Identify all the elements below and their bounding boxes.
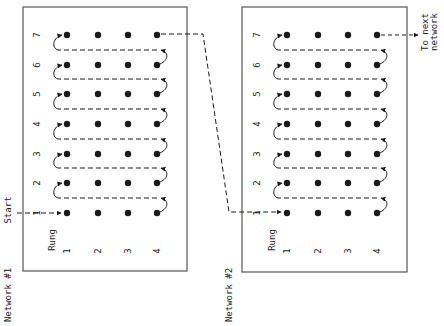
contact-dot	[315, 151, 321, 157]
contact-dot	[64, 32, 70, 38]
contact-dot	[345, 62, 351, 68]
rung-label: 7	[252, 32, 262, 37]
scan-advance-curve	[54, 124, 62, 139]
column-label: 1	[62, 248, 72, 253]
rung-label: 7	[32, 32, 42, 37]
contact-dot	[64, 91, 70, 97]
column-label: 2	[313, 248, 323, 253]
scan-advance-curve	[274, 154, 282, 168]
scan-advance-curve	[274, 35, 282, 50]
contact-dot	[315, 62, 321, 68]
scan-advance-curve	[54, 65, 62, 79]
contact-dot	[95, 121, 101, 127]
contact-dot	[345, 32, 351, 38]
column-label: 3	[123, 248, 133, 253]
contact-dot	[154, 121, 160, 127]
scan-diagram: 12345671234 12345671234 Start Network #1…	[0, 0, 444, 326]
rung-label: 6	[252, 62, 262, 67]
scan-return-curve	[160, 198, 167, 212]
contact-dot	[64, 121, 70, 127]
network-2-label: Network #2	[224, 268, 234, 322]
contact-dot	[345, 91, 351, 97]
contact-dot	[154, 180, 160, 186]
contact-dot	[374, 62, 380, 68]
rung-label: 4	[32, 121, 42, 126]
scan-advance-curve	[274, 65, 282, 79]
contact-dot	[125, 32, 131, 38]
column-label: 2	[93, 248, 103, 253]
contact-dot	[125, 91, 131, 97]
rung-label: 6	[32, 62, 42, 67]
scan-return-curve	[380, 198, 387, 212]
contact-dot	[374, 121, 380, 127]
column-label: 3	[343, 248, 353, 253]
contact-dot	[374, 32, 380, 38]
scan-return-curve	[160, 109, 167, 123]
scan-return-curve	[160, 168, 167, 182]
contact-dot	[95, 180, 101, 186]
rung-label: 4	[252, 121, 262, 126]
scan-advance-curve	[274, 183, 282, 198]
contact-dot	[315, 91, 321, 97]
contact-dot	[125, 151, 131, 157]
contact-dot	[345, 180, 351, 186]
contact-dot	[64, 210, 70, 216]
scan-advance-curve	[54, 94, 62, 109]
contact-dot	[284, 121, 290, 127]
contact-dot	[374, 180, 380, 186]
contact-dot	[154, 62, 160, 68]
start-label: Start	[3, 196, 13, 223]
network-2-rung-header: Rung	[267, 229, 277, 251]
contact-dot	[315, 32, 321, 38]
scan-return-curve	[160, 79, 167, 93]
contact-dot	[125, 121, 131, 127]
contact-dot	[284, 91, 290, 97]
contact-dot	[374, 91, 380, 97]
contact-dot	[345, 121, 351, 127]
contact-dot	[315, 210, 321, 216]
column-label: 1	[282, 248, 292, 253]
column-label: 4	[372, 248, 382, 253]
scan-return-curve	[380, 168, 387, 182]
contact-dot	[315, 180, 321, 186]
contact-dot	[64, 151, 70, 157]
scan-return-curve	[380, 109, 387, 123]
scan-advance-curve	[54, 183, 62, 198]
contact-dot	[154, 151, 160, 157]
scan-advance-curve	[54, 35, 62, 50]
contact-dot	[64, 180, 70, 186]
scan-return-curve	[380, 139, 387, 153]
contact-dot	[345, 151, 351, 157]
network-1-label: Network #1	[3, 268, 13, 322]
scan-advance-curve	[274, 94, 282, 109]
contact-dot	[95, 210, 101, 216]
contact-dot	[125, 180, 131, 186]
rung-label: 5	[32, 91, 42, 96]
rung-label: 2	[252, 180, 262, 185]
network-connector	[161, 34, 281, 212]
contact-dot	[284, 151, 290, 157]
network-1-rung-header: Rung	[47, 229, 57, 251]
contact-dot	[284, 62, 290, 68]
rung-label: 5	[252, 91, 262, 96]
contact-dot	[154, 210, 160, 216]
rung-label: 1	[252, 210, 262, 215]
rung-label: 2	[32, 180, 42, 185]
contact-dot	[154, 32, 160, 38]
contact-dot	[315, 121, 321, 127]
contact-dot	[95, 151, 101, 157]
contact-dot	[95, 62, 101, 68]
contact-dot	[95, 91, 101, 97]
contact-dot	[125, 210, 131, 216]
contact-dot	[284, 180, 290, 186]
contact-dot	[125, 62, 131, 68]
contact-dot	[154, 91, 160, 97]
rung-label: 3	[252, 151, 262, 156]
contact-dot	[374, 151, 380, 157]
column-label: 4	[152, 248, 162, 253]
scan-advance-curve	[54, 154, 62, 168]
next-network-label-line2: network	[429, 12, 439, 51]
contact-dot	[284, 32, 290, 38]
scan-return-curve	[160, 139, 167, 153]
contact-dot	[64, 62, 70, 68]
